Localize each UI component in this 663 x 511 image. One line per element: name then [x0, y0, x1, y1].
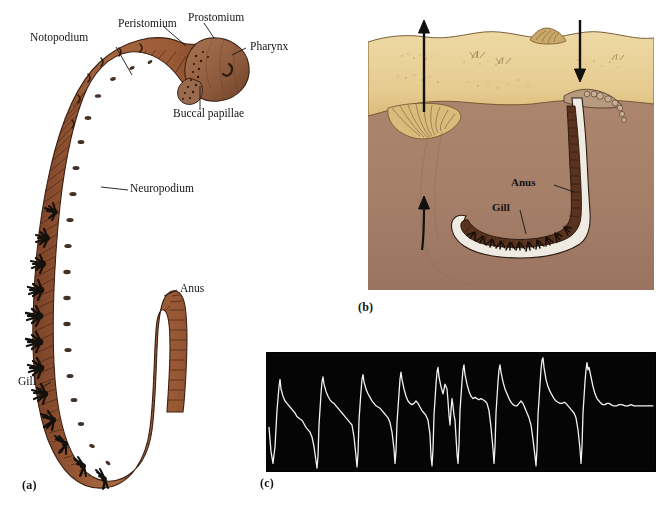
callout-pharynx: Pharynx — [250, 41, 288, 53]
panel-b-burrow: Anus Gill (b) — [368, 20, 654, 290]
faecal-cast — [530, 28, 566, 44]
callout-buccal-papillae: Buccal papillae — [173, 108, 244, 120]
leader-neuropodium — [101, 187, 128, 190]
callout-prostomium: Prostomium — [188, 12, 244, 24]
parapodia-markings — [63, 59, 153, 466]
leader-prostomium — [204, 23, 214, 38]
burrow-frame: Anus Gill — [368, 20, 654, 290]
oscilloscope-screen — [266, 352, 656, 472]
callout-gill: Gill — [18, 376, 36, 388]
callout-neuropodium: Neuropodium — [130, 183, 194, 195]
panel-b-label: (b) — [358, 300, 373, 315]
burrow-cross-section — [368, 20, 654, 290]
figure-root: Notopodium Peristomium Prostomium Pharyn… — [0, 0, 663, 511]
panel-a-label: (a) — [22, 478, 37, 493]
callout-b-anus: Anus — [511, 177, 535, 188]
trace-line — [269, 358, 653, 468]
callout-b-gill: Gill — [492, 202, 510, 213]
callout-anus: Anus — [180, 283, 204, 295]
panel-c-recording: (c) — [266, 352, 656, 472]
panel-c-label: (c) — [260, 476, 274, 491]
callout-peristomium: Peristomium — [118, 18, 177, 30]
irrigation-trace-chart — [267, 353, 657, 473]
callout-notopodium: Notopodium — [30, 32, 88, 44]
worm-body — [33, 38, 247, 488]
